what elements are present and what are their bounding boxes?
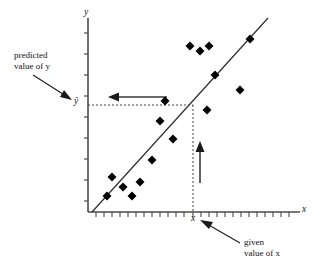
regression-line xyxy=(92,18,268,212)
x-axis-label: x xyxy=(302,204,306,214)
data-point xyxy=(148,156,157,165)
given-value-annotation-arrow xyxy=(200,220,240,243)
x-tick-label: x xyxy=(191,213,195,223)
y-hat-tick-label: ŷ xyxy=(74,96,78,106)
data-point xyxy=(236,86,245,95)
scatter-plot-canvas xyxy=(0,0,320,263)
data-point xyxy=(196,47,205,56)
given-value-line-2: value of x xyxy=(244,248,280,258)
data-point xyxy=(128,192,137,201)
data-point xyxy=(156,117,165,126)
axes-group xyxy=(88,18,300,212)
data-point xyxy=(203,106,212,115)
predicted-value-line-1: predicted xyxy=(14,50,47,60)
data-point xyxy=(119,183,128,192)
y-axis-label: y xyxy=(84,7,88,17)
data-point xyxy=(108,173,117,182)
data-point xyxy=(169,135,178,144)
data-point xyxy=(186,42,195,51)
given-value-line-1: given xyxy=(244,237,264,247)
regression-prediction-figure: predictedvalue of y givenvalue of x y x … xyxy=(0,0,320,263)
predicted-value-annotation-arrow xyxy=(33,75,72,100)
predicted-value-line-2: value of y xyxy=(14,61,50,71)
given-value-label: givenvalue of x xyxy=(244,237,280,258)
data-point xyxy=(211,71,220,80)
upward-read-arrow xyxy=(196,141,205,183)
data-point xyxy=(205,42,214,51)
data-point xyxy=(136,178,145,187)
data-point xyxy=(161,97,170,106)
leftward-read-arrow xyxy=(108,93,167,102)
predicted-value-label: predictedvalue of y xyxy=(14,50,50,71)
